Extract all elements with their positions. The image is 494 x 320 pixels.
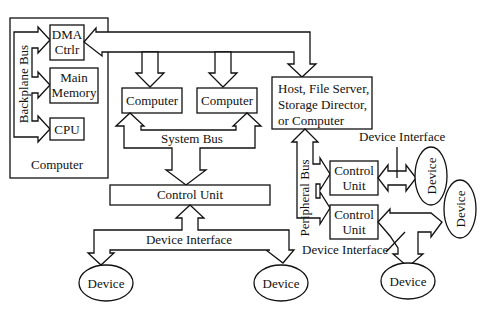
dma-label-2: Ctrlr [55, 42, 80, 57]
host-label-1: Host, File Server, [278, 81, 369, 96]
computer-b-label: Computer [201, 93, 254, 108]
host-label-3: or Computer [278, 113, 345, 128]
system-bus-label: System Bus [161, 131, 223, 146]
computer-b-down-arrow [209, 52, 237, 87]
control-unit-main-label: Control Unit [157, 187, 223, 202]
control-unit-1-label-2: Unit [342, 178, 366, 193]
dma-label-1: DMA [52, 27, 83, 42]
cpu-label: CPU [54, 122, 80, 137]
memory-label-2: Memory [52, 85, 97, 100]
memory-label-1: Main [60, 70, 88, 85]
dma-link-arrow [84, 28, 316, 77]
backplane-bus-label: Backplane Bus [16, 45, 31, 123]
device-left-2-label: Device [263, 276, 300, 291]
device-interface-left-label: Device Interface [146, 232, 232, 247]
device-interface-bottom-arrow [378, 209, 442, 267]
computer-group-label: Computer [31, 157, 84, 172]
control-unit-1-label-1: Control [334, 163, 374, 178]
io-architecture-diagram: Backplane Bus DMA Ctrlr Main Memory CPU … [0, 0, 494, 320]
control-unit-2-label-1: Control [334, 207, 374, 222]
device-left-1-label: Device [88, 276, 125, 291]
computer-a-down-arrow [136, 52, 164, 87]
device-interface-bottom-label: Device Interface [302, 242, 388, 257]
device-interface-top-label: Device Interface [359, 129, 445, 144]
host-label-2: Storage Director, [278, 97, 367, 112]
computer-a-label: Computer [126, 93, 179, 108]
device-right-3-label: Device [390, 274, 427, 289]
device-right-1-label: Device [424, 157, 439, 194]
system-bus-arrow [116, 113, 261, 185]
control-unit-2-label-2: Unit [342, 222, 366, 237]
device-right-2-label: Device [453, 190, 468, 227]
peripheral-bus-label: Peripheral Bus [297, 160, 312, 237]
